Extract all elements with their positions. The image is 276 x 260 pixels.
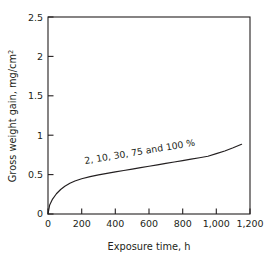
y-axis-title: Gross weight gain, mg/cm2 — [7, 50, 18, 182]
y-tick-label-2_5: 2.5 — [28, 12, 43, 23]
x-tick-label-1200: 1,200 — [236, 218, 263, 229]
y-tick-label-1: 1 — [37, 130, 43, 141]
y-tick-label-0: 0 — [37, 208, 43, 219]
x-axis-title: Exposure time, h — [107, 241, 190, 252]
y-tick-label-0_5: 0.5 — [28, 169, 43, 180]
x-tick-label-1000: 1,000 — [203, 218, 230, 229]
y-axis-title-group: Gross weight gain, mg/cm2 — [7, 50, 18, 182]
x-tick-label-800: 800 — [174, 218, 192, 229]
y-axis-title-exponent: 2 — [7, 50, 15, 54]
chart-figure: 0 0.5 1 1.5 2 2.5 0 200 400 600 800 1,00… — [0, 0, 276, 260]
y-tick-label-1_5: 1.5 — [28, 90, 43, 101]
y-axis-title-base: Gross weight gain, mg/cm — [7, 54, 18, 182]
x-tick-label-400: 400 — [106, 218, 124, 229]
y-tick-label-2: 2 — [37, 51, 43, 62]
x-tick-label-200: 200 — [73, 218, 91, 229]
x-tick-label-600: 600 — [140, 218, 158, 229]
weight-gain-line-chart: 0 0.5 1 1.5 2 2.5 0 200 400 600 800 1,00… — [0, 0, 276, 260]
x-tick-label-0: 0 — [45, 218, 51, 229]
